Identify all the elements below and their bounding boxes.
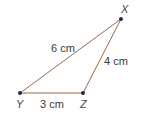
vertex-z-dot <box>81 91 85 95</box>
vertex-x-dot <box>119 17 123 21</box>
edge-zx-label: 4 cm <box>104 55 128 67</box>
vertex-y-dot <box>18 91 22 95</box>
triangle-diagram: X Y Z 6 cm 4 cm 3 cm <box>0 0 146 117</box>
vertex-x-label: X <box>120 3 129 15</box>
vertex-z-label: Z <box>79 98 88 110</box>
edge-yz-label: 3 cm <box>40 98 64 110</box>
edge-yx-label: 6 cm <box>51 42 75 54</box>
vertex-y-label: Y <box>16 98 24 110</box>
